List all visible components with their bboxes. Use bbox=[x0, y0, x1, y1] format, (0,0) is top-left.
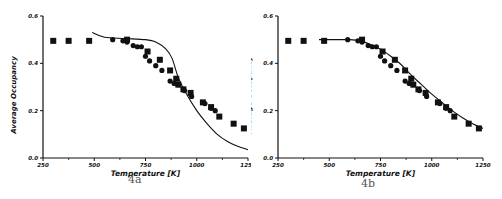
y-tick-label: 0.6 bbox=[28, 13, 38, 19]
chart-panel-4b: 0.00.20.40.625050075010001250Temperature… bbox=[251, 0, 502, 199]
model-curve bbox=[319, 40, 483, 129]
square-marker bbox=[167, 67, 173, 73]
circle-marker bbox=[378, 54, 383, 59]
x-axis-label: Temperature [K] bbox=[346, 169, 416, 178]
circle-marker bbox=[124, 39, 129, 44]
x-tick-label: 1250 bbox=[475, 162, 490, 168]
circle-marker bbox=[394, 68, 399, 73]
circle-marker bbox=[153, 63, 158, 68]
y-tick-label: 0.0 bbox=[263, 155, 273, 161]
circle-marker bbox=[139, 44, 144, 49]
chart-panel-4a: 0.00.20.40.625050075010001250Temperature… bbox=[0, 0, 251, 199]
x-tick-label: 750 bbox=[140, 162, 152, 168]
circle-marker bbox=[213, 108, 218, 113]
square-marker bbox=[50, 38, 56, 44]
circle-marker bbox=[189, 94, 194, 99]
square-marker bbox=[145, 49, 151, 55]
chart-4a-plot: 0.00.20.40.625050075010001250Temperature… bbox=[0, 0, 251, 199]
y-tick-label: 0.0 bbox=[28, 155, 38, 161]
circle-marker bbox=[143, 54, 148, 59]
square-marker bbox=[231, 121, 237, 127]
square-marker bbox=[86, 38, 92, 44]
circle-marker bbox=[417, 88, 422, 93]
circle-marker bbox=[159, 68, 164, 73]
y-tick-label: 0.4 bbox=[28, 60, 38, 66]
y-axis-label: Average Occupancy bbox=[10, 56, 18, 135]
square-marker bbox=[451, 114, 457, 120]
square-marker bbox=[157, 57, 163, 63]
circle-marker bbox=[147, 58, 152, 63]
circle-marker bbox=[202, 101, 207, 106]
circle-marker bbox=[424, 94, 429, 99]
y-axis-label: Average Occupancy bbox=[251, 56, 253, 135]
x-tick-label: 250 bbox=[37, 162, 49, 168]
y-tick-label: 0.4 bbox=[263, 60, 273, 66]
x-tick-label: 750 bbox=[375, 162, 387, 168]
square-marker bbox=[216, 114, 222, 120]
square-marker bbox=[66, 38, 72, 44]
y-tick-label: 0.2 bbox=[28, 108, 38, 114]
x-axis-label: Temperature [K] bbox=[111, 169, 181, 178]
x-tick-label: 500 bbox=[324, 162, 336, 168]
x-tick-label: 1000 bbox=[189, 162, 204, 168]
square-marker bbox=[301, 38, 307, 44]
circle-marker bbox=[411, 82, 416, 87]
chart-4b-plot: 0.00.20.40.625050075010001250Temperature… bbox=[251, 0, 502, 199]
square-marker bbox=[321, 38, 327, 44]
x-tick-label: 500 bbox=[89, 162, 101, 168]
x-tick-label: 1000 bbox=[424, 162, 439, 168]
model-curve bbox=[92, 33, 248, 150]
y-tick-label: 0.6 bbox=[263, 13, 273, 19]
y-tick-label: 0.2 bbox=[263, 108, 273, 114]
circle-marker bbox=[382, 58, 387, 63]
x-tick-label: 250 bbox=[272, 162, 284, 168]
chart-4b-caption: 4b bbox=[361, 177, 375, 190]
square-marker bbox=[241, 125, 247, 131]
square-marker bbox=[285, 38, 291, 44]
x-tick-label: 1250 bbox=[240, 162, 251, 168]
chart-4a-caption: 4a bbox=[128, 173, 142, 186]
circle-marker bbox=[388, 63, 393, 68]
